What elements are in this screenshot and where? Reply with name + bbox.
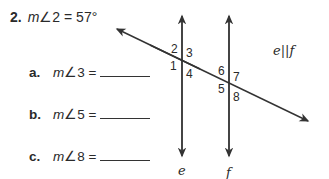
angle-label-6: 6 bbox=[218, 64, 225, 78]
angle-label-3: 3 bbox=[186, 46, 193, 60]
line-f-label: f bbox=[225, 165, 233, 179]
angle-label-8: 8 bbox=[233, 90, 240, 104]
angle-label-2: 2 bbox=[171, 42, 178, 56]
parallel-lines-diagram: 2 3 1 4 6 7 5 8 e f e||f bbox=[0, 0, 329, 179]
angle-label-5: 5 bbox=[218, 82, 225, 96]
line-e-label: e bbox=[178, 163, 186, 178]
parallel-note: e||f bbox=[273, 43, 296, 58]
angle-label-4: 4 bbox=[186, 67, 193, 81]
angle-label-7: 7 bbox=[233, 70, 240, 84]
angle-label-1: 1 bbox=[170, 59, 177, 73]
